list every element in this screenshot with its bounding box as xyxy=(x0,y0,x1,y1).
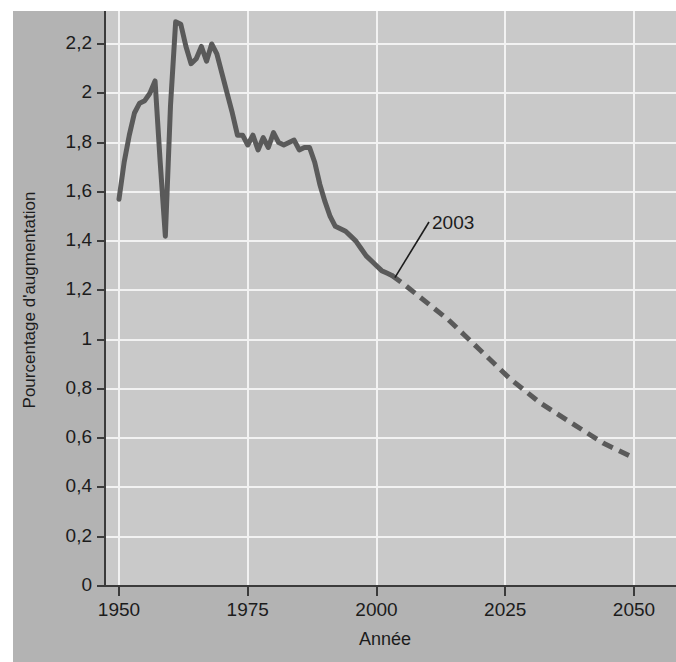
y-tick-mark xyxy=(97,388,106,390)
gridline-vertical xyxy=(118,11,120,586)
gridline-horizontal xyxy=(105,191,676,193)
gridline-vertical xyxy=(376,11,378,586)
x-tick-label: 2025 xyxy=(465,599,545,621)
y-tick-label: 2,2 xyxy=(66,32,92,54)
gridline-vertical xyxy=(633,11,635,586)
gridline-horizontal xyxy=(105,388,676,390)
y-tick-mark xyxy=(97,536,106,538)
gridline-horizontal xyxy=(105,486,676,488)
gridline-horizontal xyxy=(105,536,676,538)
x-axis-title: Année xyxy=(285,629,485,650)
y-tick-label: 1,6 xyxy=(66,180,92,202)
y-tick-mark xyxy=(97,486,106,488)
x-tick-mark xyxy=(633,587,635,596)
y-tick-label: 1,2 xyxy=(66,278,92,300)
gridline-horizontal xyxy=(105,92,676,94)
y-tick-mark xyxy=(97,240,106,242)
x-tick-label: 2050 xyxy=(594,599,674,621)
y-tick-label: 0,6 xyxy=(66,426,92,448)
x-tick-mark xyxy=(247,587,249,596)
gridline-vertical xyxy=(504,11,506,586)
y-tick-mark xyxy=(97,142,106,144)
gridline-horizontal xyxy=(105,240,676,242)
y-tick-label: 0,8 xyxy=(66,377,92,399)
y-tick-mark xyxy=(97,191,106,193)
y-tick-label: 1,8 xyxy=(66,131,92,153)
y-tick-label: 0,4 xyxy=(66,475,92,497)
gridline-horizontal xyxy=(105,43,676,45)
x-tick-label: 1975 xyxy=(208,599,288,621)
annotation-label-2003: 2003 xyxy=(432,212,474,234)
x-tick-label: 2000 xyxy=(337,599,417,621)
x-tick-mark xyxy=(118,587,120,596)
gridline-horizontal xyxy=(105,142,676,144)
y-tick-label: 2 xyxy=(81,81,92,103)
x-tick-mark xyxy=(504,587,506,596)
y-axis-title: Pourcentage d'augmentation xyxy=(20,120,40,480)
y-tick-mark xyxy=(97,437,106,439)
gridline-horizontal xyxy=(105,437,676,439)
x-tick-label: 1950 xyxy=(79,599,159,621)
y-tick-label: 0 xyxy=(81,574,92,596)
x-axis-line xyxy=(105,585,676,587)
chart-figure: 00,20,40,60,811,21,41,61,822,2 195019752… xyxy=(0,0,676,662)
gridline-horizontal xyxy=(105,289,676,291)
gridline-horizontal xyxy=(105,339,676,341)
y-axis-line xyxy=(104,11,106,587)
gridline-vertical xyxy=(247,11,249,586)
y-tick-label: 1 xyxy=(81,328,92,350)
y-tick-label: 0,2 xyxy=(66,525,92,547)
y-tick-mark xyxy=(97,585,106,587)
plot-area xyxy=(105,11,676,586)
y-tick-mark xyxy=(97,43,106,45)
y-tick-mark xyxy=(97,289,106,291)
y-tick-mark xyxy=(97,92,106,94)
y-tick-mark xyxy=(97,339,106,341)
x-tick-mark xyxy=(376,587,378,596)
y-tick-label: 1,4 xyxy=(66,229,92,251)
